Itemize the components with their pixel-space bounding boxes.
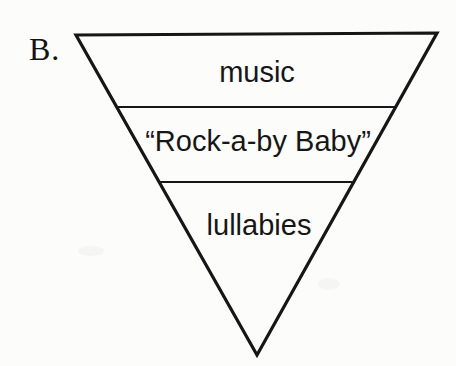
- scan-smudge: [78, 246, 104, 256]
- figure-canvas: B. music “Rock-a-by Baby” lullabies: [0, 0, 456, 366]
- level-label-rock-a-by-baby: “Rock-a-by Baby”: [145, 127, 371, 156]
- level-label-music: music: [219, 58, 295, 87]
- scan-smudge: [318, 278, 340, 290]
- level-label-lullabies: lullabies: [207, 211, 312, 240]
